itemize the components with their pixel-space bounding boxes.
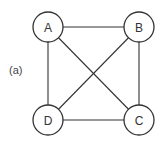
complete-graph-k4: A B C D	[0, 0, 165, 145]
node-d: D	[33, 105, 63, 135]
node-a-label: A	[44, 21, 52, 35]
node-c: C	[124, 105, 154, 135]
node-c-label: C	[135, 114, 144, 128]
node-b-label: B	[135, 21, 143, 35]
node-a: A	[33, 12, 63, 42]
edges	[48, 27, 139, 120]
node-b: B	[124, 12, 154, 42]
node-d-label: D	[44, 114, 53, 128]
